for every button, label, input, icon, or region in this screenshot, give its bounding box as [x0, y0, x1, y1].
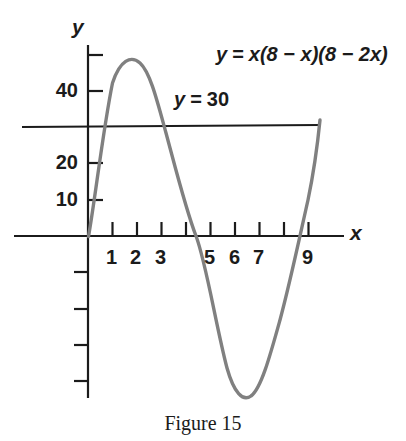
- curve-equation-lhs: y: [216, 43, 227, 65]
- x-tick-label-5: 5: [204, 247, 215, 267]
- curve-equation-annotation: y=x(8 − x)(8 − 2x): [216, 44, 388, 64]
- curve-equation-rhs: x(8 − x)(8 − 2x): [249, 43, 388, 65]
- line-equation-eq: =: [190, 88, 202, 110]
- cubic-curve: [89, 59, 321, 397]
- x-tick-label-6: 6: [229, 247, 240, 267]
- x-tick-label-7: 7: [253, 247, 264, 267]
- curve-equation-eq: =: [232, 43, 244, 65]
- x-tick-label-3: 3: [155, 247, 166, 267]
- y-tick-label-20: 20: [32, 152, 78, 172]
- x-tick-label-1: 1: [106, 247, 117, 267]
- plot-canvas: [0, 0, 406, 441]
- line-equation-annotation: y=30: [174, 89, 229, 109]
- figure-caption: Figure 15: [0, 412, 406, 435]
- x-tick-label-9: 9: [302, 247, 313, 267]
- x-tick-label-2: 2: [130, 247, 141, 267]
- y-axis-label: y: [72, 16, 84, 37]
- line-equation-lhs: y: [174, 88, 185, 110]
- y-tick-label-40: 40: [32, 80, 78, 100]
- y-tick-label-10: 10: [32, 189, 78, 209]
- line-equation-rhs: 30: [207, 88, 229, 110]
- x-axis-ticks: [113, 222, 309, 236]
- x-axis-label: x: [350, 222, 362, 243]
- y-axis-ticks-negative: [74, 272, 88, 381]
- figure-15: y x 40 20 10 1 2 3 5 6 7 9 y=x(8 − x)(8 …: [0, 0, 406, 441]
- line-y-equals-30: [22, 125, 320, 127]
